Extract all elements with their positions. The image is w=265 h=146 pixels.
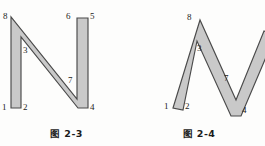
vertex-label-7: 7 [224, 74, 229, 83]
vertex-label-1: 1 [2, 103, 7, 112]
vertex-label-8: 8 [3, 12, 8, 21]
vertex-label-4: 4 [90, 103, 95, 112]
figure-2-4: 8 3 7 1 2 4 图 2-4 [133, 0, 265, 146]
vertex-label-6: 6 [66, 12, 71, 21]
vertex-label-5: 5 [90, 12, 95, 21]
scanned-page: 8 6 5 3 7 1 2 4 图 2-3 8 3 7 1 2 4 图 2-4 [0, 0, 265, 146]
figure-2-3: 8 6 5 3 7 1 2 4 图 2-3 [0, 0, 133, 146]
vertex-label-8: 8 [187, 13, 192, 22]
vertex-label-3: 3 [23, 46, 28, 55]
vertex-label-2: 2 [185, 102, 190, 111]
vertex-label-1: 1 [164, 102, 169, 111]
vertex-label-3: 3 [197, 44, 202, 53]
figure-caption: 图 2-4 [133, 126, 265, 140]
figure-caption: 图 2-3 [0, 126, 133, 140]
letter-n-outline [11, 17, 88, 108]
vertex-label-7: 7 [68, 76, 73, 85]
vertex-label-2: 2 [23, 103, 28, 112]
vertex-label-4: 4 [242, 106, 247, 115]
